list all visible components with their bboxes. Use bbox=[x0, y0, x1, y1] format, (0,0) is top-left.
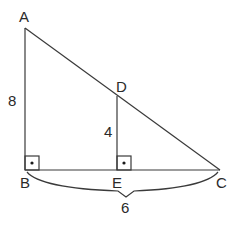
right-angle-marker-b bbox=[25, 156, 39, 170]
measure-bc: 6 bbox=[121, 199, 129, 216]
brace-bc bbox=[27, 172, 218, 197]
point-label-a: A bbox=[19, 8, 29, 25]
segment-ac bbox=[25, 28, 220, 170]
measure-de: 4 bbox=[104, 123, 112, 140]
point-label-b: B bbox=[20, 174, 30, 191]
point-label-c: C bbox=[216, 174, 227, 191]
geometry-diagram: A B C D E 8 4 6 bbox=[0, 0, 243, 228]
right-angle-marker-e bbox=[117, 156, 131, 170]
point-label-d: D bbox=[116, 78, 127, 95]
measure-ab: 8 bbox=[8, 92, 16, 109]
point-label-e: E bbox=[112, 174, 122, 191]
